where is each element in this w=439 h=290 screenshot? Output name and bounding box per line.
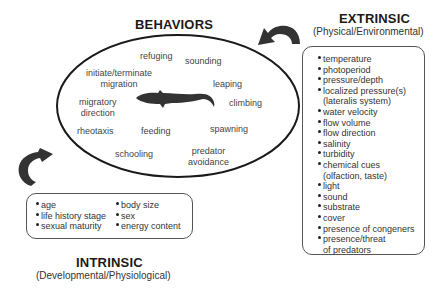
intrinsic-factors-box: age life history stage sexual maturity b… bbox=[26, 193, 193, 239]
extrinsic-factors-box: temperature photoperiod pressure/depth l… bbox=[302, 46, 425, 255]
extrinsic-item: turbidity bbox=[318, 149, 415, 160]
behaviors-title: BEHAVIORS bbox=[135, 17, 213, 32]
behavior-migratory-direction: migratorydirection bbox=[79, 97, 117, 119]
extrinsic-item: salinity bbox=[318, 139, 415, 150]
fish-silhouette-icon bbox=[136, 90, 214, 108]
behavior-spawning: spawning bbox=[210, 124, 248, 135]
extrinsic-arrow-icon bbox=[258, 26, 300, 45]
extrinsic-factors-list: temperature photoperiod pressure/depth l… bbox=[318, 54, 415, 255]
extrinsic-item: presence/threat bbox=[318, 234, 415, 245]
extrinsic-title: EXTRINSIC bbox=[339, 11, 410, 26]
extrinsic-item-continuation: of predators bbox=[318, 245, 415, 256]
extrinsic-subtitle: (Physical/Environmental) bbox=[313, 26, 424, 37]
behavior-schooling: schooling bbox=[115, 149, 153, 160]
extrinsic-item: photoperiod bbox=[318, 65, 415, 76]
extrinsic-item: presence of congeners bbox=[318, 224, 415, 235]
extrinsic-item: localized pressure(s) bbox=[318, 86, 415, 97]
behavior-initiate-terminate-migration: initiate/terminatemigration bbox=[86, 68, 152, 90]
extrinsic-item: sound bbox=[318, 192, 415, 203]
intrinsic-factors-list-col2: body size sex energy content bbox=[116, 200, 181, 232]
extrinsic-item: cover bbox=[318, 213, 415, 224]
intrinsic-title: INTRINSIC bbox=[76, 255, 143, 270]
behavior-sounding: sounding bbox=[185, 56, 222, 67]
extrinsic-item: pressure/depth bbox=[318, 75, 415, 86]
extrinsic-item-continuation: (olfaction, taste) bbox=[318, 171, 415, 182]
intrinsic-item: life history stage bbox=[36, 211, 106, 222]
extrinsic-item: chemical cues bbox=[318, 160, 415, 171]
intrinsic-item: age bbox=[36, 200, 106, 211]
extrinsic-item: substrate bbox=[318, 202, 415, 213]
behavior-feeding: feeding bbox=[141, 126, 171, 137]
extrinsic-item-continuation: (lateralis system) bbox=[318, 96, 415, 107]
intrinsic-subtitle: (Developmental/Physiological) bbox=[36, 270, 171, 281]
extrinsic-item: flow volume bbox=[318, 118, 415, 129]
behavior-leaping: leaping bbox=[213, 79, 242, 90]
intrinsic-item: energy content bbox=[116, 221, 181, 232]
behavior-rheotaxis: rheotaxis bbox=[77, 126, 114, 137]
intrinsic-item: body size bbox=[116, 200, 181, 211]
intrinsic-factors-list-col1: age life history stage sexual maturity bbox=[36, 200, 106, 232]
intrinsic-arrow-icon bbox=[19, 148, 53, 186]
extrinsic-item: water velocity bbox=[318, 107, 415, 118]
intrinsic-item: sex bbox=[116, 211, 181, 222]
extrinsic-item: temperature bbox=[318, 54, 415, 65]
extrinsic-item: light bbox=[318, 181, 415, 192]
extrinsic-item: flow direction bbox=[318, 128, 415, 139]
behavior-refuging: refuging bbox=[140, 51, 173, 62]
behavior-climbing: climbing bbox=[229, 98, 262, 109]
intrinsic-item: sexual maturity bbox=[36, 221, 106, 232]
behavior-predator-avoidance: predatoravoidance bbox=[188, 146, 229, 168]
